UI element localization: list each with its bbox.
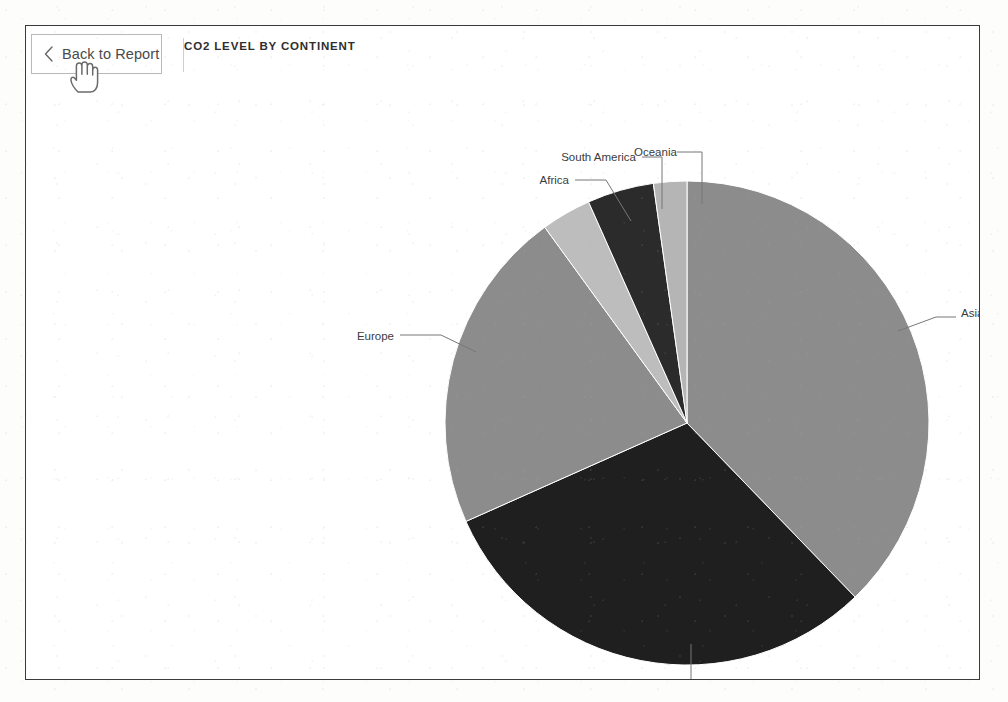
header-bar: Back to Report CO2 LEVEL BY CONTINENT	[26, 26, 979, 84]
report-frame: Back to Report CO2 LEVEL BY CONTINENT As…	[25, 25, 980, 680]
page-title: CO2 LEVEL BY CONTINENT	[184, 40, 356, 52]
pie-slices-group	[445, 181, 929, 665]
pie-label-africa: Africa	[540, 174, 570, 186]
back-to-report-label: Back to Report	[62, 46, 159, 62]
pie-label-oceania: Oceania	[634, 146, 677, 158]
pie-label-europe: Europe	[357, 330, 394, 342]
pie-chart-area: AsiaNorth AmericaEuropeAfricaSouth Ameri…	[26, 84, 979, 679]
pie-label-south-america: South America	[561, 151, 636, 163]
chevron-left-icon	[42, 44, 56, 64]
pie-label-asia: Asia	[961, 307, 979, 319]
back-to-report-button[interactable]: Back to Report	[31, 34, 162, 74]
pie-chart-svg: AsiaNorth AmericaEuropeAfricaSouth Ameri…	[26, 84, 979, 679]
